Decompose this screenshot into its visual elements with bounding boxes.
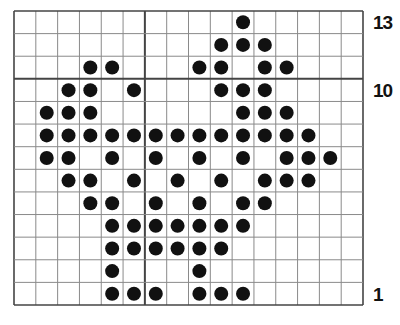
- filled-dot: [105, 151, 119, 165]
- filled-dot: [149, 128, 163, 142]
- filled-dot: [236, 128, 250, 142]
- filled-dot: [127, 83, 141, 97]
- filled-dot: [258, 196, 272, 210]
- filled-dot: [192, 61, 206, 75]
- filled-dot: [149, 241, 163, 255]
- filled-dot: [171, 241, 185, 255]
- filled-dot: [149, 151, 163, 165]
- filled-dot: [171, 219, 185, 233]
- filled-dot: [236, 83, 250, 97]
- filled-dot: [236, 38, 250, 52]
- filled-dot: [105, 219, 119, 233]
- filled-dot: [214, 38, 228, 52]
- filled-dot: [83, 106, 97, 120]
- filled-dot: [236, 15, 250, 29]
- filled-dot: [258, 128, 272, 142]
- filled-dot: [127, 219, 141, 233]
- filled-dot: [192, 151, 206, 165]
- filled-dot: [258, 174, 272, 188]
- filled-dot: [127, 128, 141, 142]
- filled-dot: [149, 196, 163, 210]
- filled-dot: [280, 128, 294, 142]
- filled-dot: [127, 241, 141, 255]
- filled-dot: [236, 196, 250, 210]
- filled-dot: [236, 151, 250, 165]
- filled-dot: [192, 241, 206, 255]
- filled-dot: [258, 61, 272, 75]
- filled-dot: [214, 83, 228, 97]
- filled-dot: [83, 174, 97, 188]
- filled-dot: [258, 106, 272, 120]
- filled-dot: [280, 151, 294, 165]
- filled-dot: [105, 61, 119, 75]
- filled-dot: [40, 128, 54, 142]
- filled-dot: [149, 219, 163, 233]
- filled-dot: [149, 287, 163, 301]
- filled-dot: [127, 287, 141, 301]
- filled-dot: [127, 174, 141, 188]
- filled-dot: [105, 264, 119, 278]
- filled-dot: [236, 219, 250, 233]
- row-label-10: 10: [373, 80, 393, 101]
- filled-dot: [83, 83, 97, 97]
- filled-dot: [192, 219, 206, 233]
- filled-dot: [280, 174, 294, 188]
- filled-dot: [105, 128, 119, 142]
- filled-dot: [62, 174, 76, 188]
- filled-dot: [280, 106, 294, 120]
- filled-dot: [192, 287, 206, 301]
- filled-dot: [105, 241, 119, 255]
- row-label-1: 1: [373, 284, 384, 305]
- filled-dot: [258, 83, 272, 97]
- filled-dot: [62, 83, 76, 97]
- filled-dot: [62, 151, 76, 165]
- filled-dot: [105, 196, 119, 210]
- filled-dot: [214, 287, 228, 301]
- row-labels: 13101: [373, 12, 393, 304]
- filled-dot: [83, 196, 97, 210]
- filled-dot: [214, 61, 228, 75]
- filled-dot: [301, 151, 315, 165]
- dot-grid-chart: 13101: [0, 0, 400, 325]
- filled-dot: [192, 264, 206, 278]
- filled-dot: [105, 287, 119, 301]
- filled-dot: [214, 128, 228, 142]
- row-label-13: 13: [373, 12, 393, 33]
- filled-dot: [323, 151, 337, 165]
- filled-dot: [83, 61, 97, 75]
- filled-dot: [62, 128, 76, 142]
- filled-dot: [258, 38, 272, 52]
- filled-dot: [301, 128, 315, 142]
- filled-dot: [62, 106, 76, 120]
- filled-dot: [192, 196, 206, 210]
- filled-dot: [214, 174, 228, 188]
- filled-dot: [214, 219, 228, 233]
- filled-dot: [83, 128, 97, 142]
- filled-dot: [40, 106, 54, 120]
- filled-dot: [236, 287, 250, 301]
- filled-dot: [171, 128, 185, 142]
- filled-dot: [280, 61, 294, 75]
- filled-dot: [301, 174, 315, 188]
- filled-dot: [236, 106, 250, 120]
- filled-dot: [214, 241, 228, 255]
- filled-dot: [40, 151, 54, 165]
- filled-dot: [171, 174, 185, 188]
- filled-dot: [192, 128, 206, 142]
